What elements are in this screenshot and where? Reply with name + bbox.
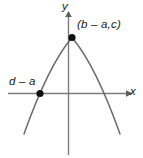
x-axis-label: x xyxy=(130,86,136,98)
vertex-coordinate-label: (b – a,c) xyxy=(77,19,121,31)
parabola-diagram: (b – a,c) d – a x y xyxy=(0,0,143,158)
parabola-curve xyxy=(24,38,120,135)
root-point-marker xyxy=(36,90,43,97)
y-axis-label: y xyxy=(62,1,68,13)
vertex-point-marker xyxy=(68,34,75,41)
x-intercept-label: d – a xyxy=(9,76,36,88)
